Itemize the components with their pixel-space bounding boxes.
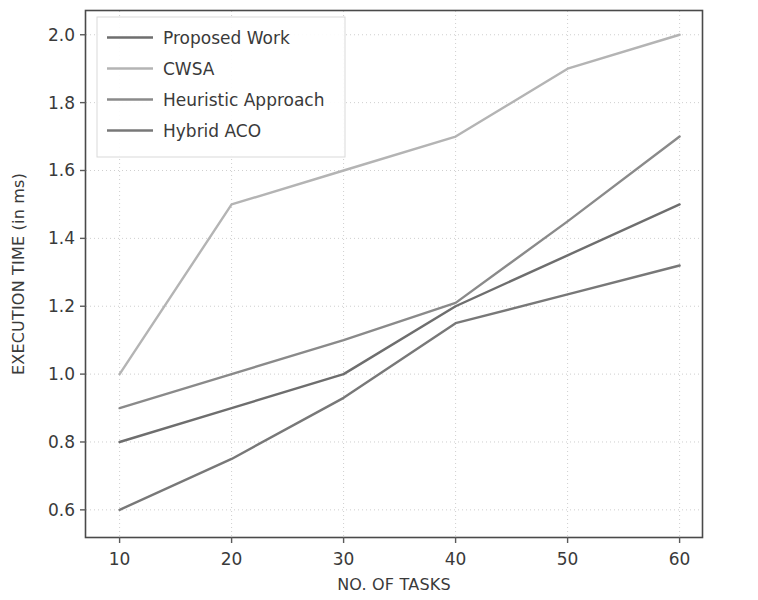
x-tick-label-2: 30	[333, 549, 355, 569]
y-tick-label-6: 1.8	[48, 93, 75, 113]
line-chart: 0.60.81.01.21.41.61.82.0 102030405060 EX…	[0, 0, 758, 600]
legend-label-3: Hybrid ACO	[163, 121, 261, 141]
x-tick-label-5: 60	[669, 549, 691, 569]
y-axis-title: EXECUTION TIME (in ms)	[9, 173, 28, 375]
x-axis-title: NO. OF TASKS	[337, 575, 451, 594]
y-tick-label-0: 0.6	[48, 500, 75, 520]
y-tick-label-3: 1.2	[48, 296, 75, 316]
legend-label-1: CWSA	[163, 59, 215, 79]
y-tick-label-7: 2.0	[48, 25, 75, 45]
legend-label-2: Heuristic Approach	[163, 90, 325, 110]
chart-figure: 0.60.81.01.21.41.61.82.0 102030405060 EX…	[0, 0, 758, 600]
x-tick-label-1: 20	[221, 549, 243, 569]
x-tick-label-0: 10	[109, 549, 131, 569]
y-tick-label-1: 0.8	[48, 432, 75, 452]
legend-label-0: Proposed Work	[163, 28, 290, 48]
y-tick-label-4: 1.4	[48, 228, 75, 248]
y-tick-label-5: 1.6	[48, 160, 75, 180]
x-tick-label-4: 50	[557, 549, 579, 569]
x-tick-label-3: 40	[445, 549, 467, 569]
chart-legend: Proposed WorkCWSAHeuristic ApproachHybri…	[97, 17, 345, 157]
y-tick-label-2: 1.0	[48, 364, 75, 384]
